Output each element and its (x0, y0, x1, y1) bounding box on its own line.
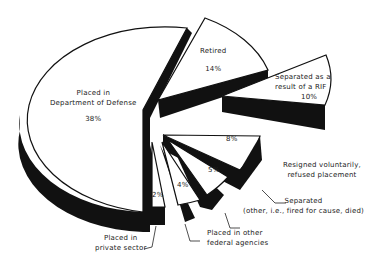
label-other-pct: 5% (208, 165, 220, 175)
label-federal: Placed in other federal agencies (207, 228, 268, 248)
label-rif: Separated as a result of a RIF 10% (275, 72, 331, 102)
label-private-pct: 2% (152, 190, 164, 200)
label-resigned: Resigned voluntarily, refused placement (283, 160, 361, 180)
label-other: Separated (other, i.e., fired for cause,… (243, 196, 364, 216)
label-private: Placed in private sector (95, 233, 146, 253)
label-resigned-pct: 8% (226, 134, 238, 144)
label-retired: Retired 14% (200, 46, 226, 74)
label-federal-pct: 4% (177, 180, 189, 190)
slice-dod-side2 (143, 110, 150, 232)
label-dod: Placed in Department of Defense 38% (50, 88, 137, 124)
pie-chart (0, 0, 386, 280)
